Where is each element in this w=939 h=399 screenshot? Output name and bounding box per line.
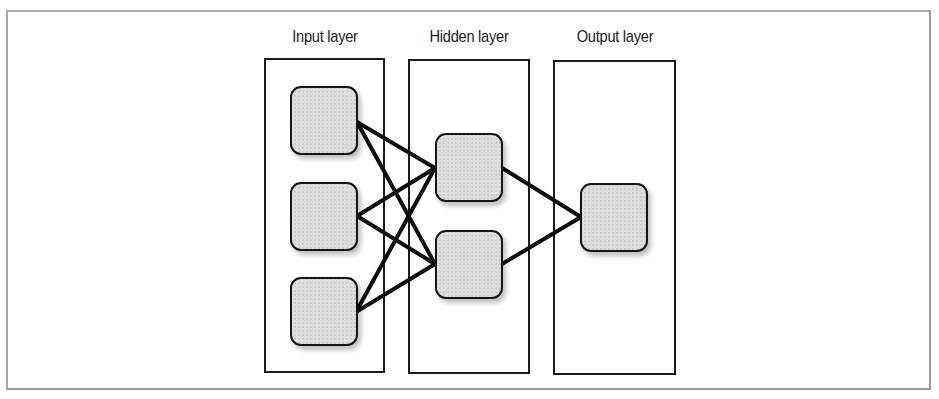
input-layer-label: Input layer — [265, 27, 385, 47]
input-node-3 — [290, 277, 358, 346]
output-node-1 — [580, 183, 648, 252]
hidden-layer-label: Hidden layer — [409, 27, 529, 47]
hidden-layer-box — [408, 59, 530, 374]
hidden-node-2 — [435, 230, 503, 299]
hidden-node-1 — [435, 133, 503, 202]
input-node-1 — [290, 86, 358, 155]
input-node-2 — [290, 182, 358, 251]
output-layer-label: Output layer — [555, 27, 675, 47]
